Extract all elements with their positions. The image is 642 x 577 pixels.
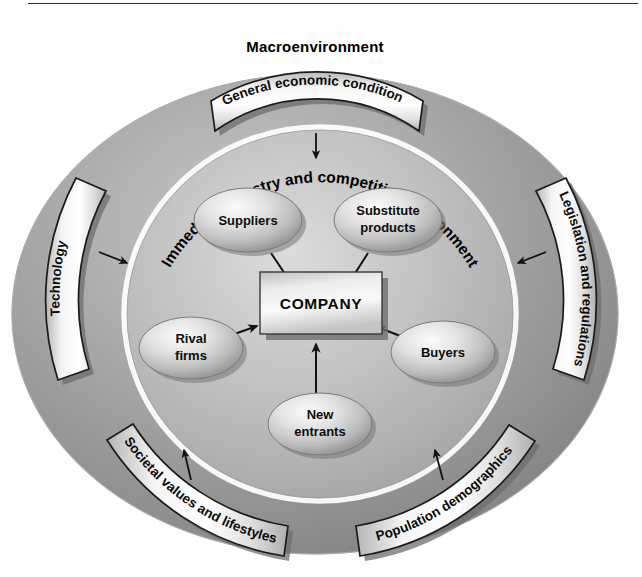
node-suppliers-label: Suppliers [218,213,277,228]
node-substitute-products-label-line1: Substitute [356,203,420,218]
node-buyers-label: Buyers [421,345,465,360]
node-substitute-products-label-line2: products [360,220,416,235]
macroenvironment-diagram: Macroenvironment Immediate industry and … [0,0,642,577]
diagram-page: Macroenvironment Immediate industry and … [0,0,642,577]
node-rival-firms-label-line2: firms [175,348,207,363]
company-node[interactable]: COMPANY [260,272,388,340]
node-new-entrants-label-line2: entrants [294,424,345,439]
macroenvironment-title: Macroenvironment [246,38,383,55]
node-new-entrants-label-line1: New [307,407,335,422]
company-label: COMPANY [280,295,362,312]
node-rival-firms-label-line1: Rival [175,331,206,346]
